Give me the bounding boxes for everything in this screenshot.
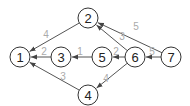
edge-weight-label: 4: [103, 73, 109, 84]
node-label: 5: [98, 50, 105, 65]
node-6: 6: [125, 47, 145, 67]
graph-svg: 423123455 1234567: [0, 0, 190, 106]
node-label: 6: [131, 50, 138, 65]
node-label: 7: [167, 50, 174, 65]
edge-weight-label: 5: [133, 21, 139, 32]
edge-arrow: [30, 23, 80, 52]
node-5: 5: [92, 47, 112, 67]
node-label: 4: [84, 88, 91, 103]
edge-weight-label: 5: [149, 46, 155, 57]
edge-weight-label: 3: [60, 71, 66, 82]
node-7: 7: [161, 47, 181, 67]
edge-weight-label: 1: [77, 46, 83, 57]
edge-weight-label: 2: [113, 46, 119, 57]
edge-weight-label: 2: [41, 46, 47, 57]
node-label: 3: [57, 50, 64, 65]
edge-weight-label: 3: [119, 31, 125, 42]
node-label: 2: [84, 11, 91, 26]
edge-arrow: [30, 62, 80, 90]
node-2: 2: [78, 8, 98, 28]
node-4: 4: [78, 85, 98, 105]
edge-weight-label: 4: [43, 29, 49, 40]
node-3: 3: [51, 47, 71, 67]
edge-2-to-1: [30, 23, 80, 52]
node-1: 1: [10, 47, 30, 67]
node-label: 1: [16, 50, 23, 65]
graph-diagram: 423123455 1234567: [0, 0, 190, 106]
edge-4-to-1: [30, 62, 80, 90]
